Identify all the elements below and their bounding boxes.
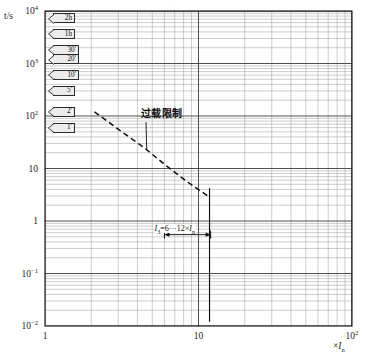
time-current-curve-figure: t/s ×In 10410310210110−110−2 110102 2h1h… <box>0 0 368 359</box>
overload-limit-dashed-line <box>94 112 207 196</box>
time-flag-label: 20' <box>68 56 76 63</box>
i3-arrow-left <box>164 232 169 236</box>
time-flag-label: 2h <box>65 15 72 22</box>
x-tick-label: 1 <box>30 331 60 341</box>
time-flag-2h: 2h <box>53 13 75 23</box>
annotation-leaders <box>146 122 211 322</box>
time-flag-label: 10' <box>68 72 76 79</box>
time-flag-label: 30' <box>68 47 76 54</box>
time-flag-20min: 20' <box>53 54 79 64</box>
time-flag-label: 1h <box>65 31 72 38</box>
x-tick-label: 102 <box>337 331 367 341</box>
x-tick-label: 10 <box>184 331 214 341</box>
y-tick-label: 102 <box>8 111 38 121</box>
time-flag-1min: 1' <box>53 123 75 133</box>
overload-label-leader <box>146 122 147 151</box>
y-tick-label: 10−2 <box>8 321 38 331</box>
overload-limit-label: 过载限制 <box>141 108 182 119</box>
x-axis-title: ×In <box>333 341 345 351</box>
y-tick-label: 103 <box>8 59 38 69</box>
time-flag-5min: 5' <box>53 86 75 96</box>
y-tick-label: 104 <box>8 6 38 16</box>
y-tick-label: 10 <box>8 164 38 174</box>
time-flag-label: 2' <box>67 108 72 115</box>
time-flag-1h: 1h <box>53 29 75 39</box>
i3-range-label: I3=6···12×In <box>154 224 196 233</box>
y-tick-label: 10−1 <box>8 269 38 279</box>
time-flag-label: 5' <box>67 87 72 94</box>
y-tick-label: 1 <box>8 216 38 226</box>
overload-limit-curve <box>94 112 207 196</box>
time-flag-label: 1' <box>67 124 72 131</box>
time-flag-10min: 10' <box>53 70 79 80</box>
x-axis-title-sub: n <box>342 346 345 353</box>
time-flag-2min: 2' <box>53 107 75 117</box>
